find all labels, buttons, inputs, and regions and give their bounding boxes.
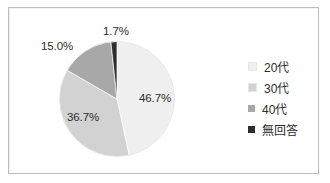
legend-swatch-icon — [248, 83, 257, 92]
legend-item[interactable]: 無回答 — [248, 119, 320, 140]
legend-item-label: 40代 — [262, 100, 287, 117]
legend-item-label: 30代 — [264, 79, 289, 96]
legend-item[interactable]: 30代 — [248, 77, 320, 98]
slice-data-label-30dai: 36.7% — [67, 111, 99, 123]
legend-item[interactable]: 40代 — [248, 98, 320, 119]
slice-data-label-20dai: 46.7% — [139, 92, 171, 104]
legend-item[interactable]: 20代 — [248, 56, 320, 77]
chart-legend: 20代30代40代無回答 — [248, 56, 320, 140]
legend-item-label: 無回答 — [262, 121, 298, 138]
legend-swatch-icon — [248, 62, 257, 71]
legend-swatch-icon — [248, 126, 255, 133]
pie-chart-screenshot: 46.7% 36.7% 15.0% 1.7% 20代30代40代無回答 — [0, 0, 330, 183]
legend-item-label: 20代 — [264, 58, 289, 75]
chart-frame: 46.7% 36.7% 15.0% 1.7% 20代30代40代無回答 — [8, 7, 319, 174]
slice-data-label-40dai: 15.0% — [41, 40, 73, 52]
legend-swatch-icon — [248, 105, 255, 112]
slice-data-label-mukaito: 1.7% — [103, 25, 129, 37]
plot-area: 46.7% 36.7% 15.0% 1.7% — [9, 8, 234, 173]
